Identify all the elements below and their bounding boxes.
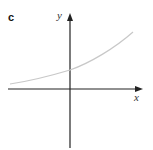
exponential-curve [10,32,133,84]
x-axis-label: x [134,92,139,103]
y-axis-arrow-icon [67,13,73,21]
chart-plot [0,0,153,150]
y-axis-label: y [57,10,62,21]
